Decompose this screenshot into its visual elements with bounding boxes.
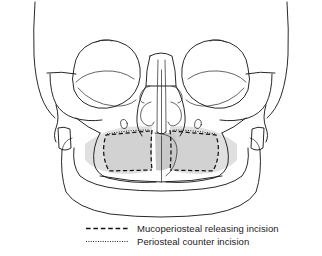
- orbit-group: [73, 40, 250, 109]
- skull-illustration: [0, 0, 322, 218]
- nasal-septum-left: [157, 60, 158, 132]
- right-inferior-turbinate: [168, 102, 181, 126]
- nasal-septum-right: [165, 60, 166, 132]
- figure-root: Mucoperiosteal releasing incision Perios…: [0, 0, 322, 256]
- left-maxillary-flap-shade: [104, 131, 152, 171]
- left-zygomatic-arch: [47, 72, 76, 74]
- right-zygoma-lower: [264, 105, 268, 142]
- legend-label-releasing: Mucoperiosteal releasing incision: [137, 223, 279, 235]
- left-zygoma-lower: [55, 105, 59, 142]
- left-orbit-outline: [73, 40, 141, 108]
- nasal-bones: [146, 53, 176, 86]
- right-temporal-outline: [267, 2, 288, 118]
- left-temporal-outline: [34, 2, 55, 118]
- right-orbit-outline: [182, 40, 250, 108]
- right-zygomatic-arch: [246, 72, 275, 74]
- cranial-outline-group: [34, 2, 289, 118]
- legend-entry-counter: Periosteal counter incision: [86, 235, 249, 248]
- legend-entry-releasing: Mucoperiosteal releasing incision: [86, 222, 279, 235]
- dashed-line-icon: [86, 228, 128, 229]
- nasal-aperture-group: [137, 53, 185, 136]
- flap-shade-group: [104, 131, 218, 171]
- legend: Mucoperiosteal releasing incision Perios…: [0, 220, 322, 256]
- maxillary-alveolar-line: [100, 176, 222, 182]
- right-coronoid-process: [251, 127, 264, 150]
- legend-label-counter: Periosteal counter incision: [137, 236, 249, 248]
- dotted-line-icon: [86, 241, 128, 242]
- left-inferior-turbinate: [141, 102, 154, 126]
- left-coronoid-process: [58, 127, 71, 150]
- left-middle-turbinate: [140, 86, 150, 103]
- right-middle-turbinate: [172, 86, 182, 103]
